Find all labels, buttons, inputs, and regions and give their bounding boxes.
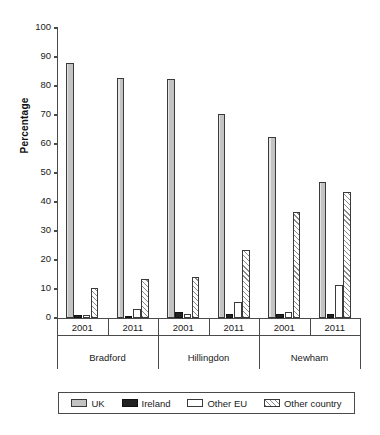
x-axis-group-separator <box>360 318 361 369</box>
y-axis-tick-label: 60 <box>40 137 51 148</box>
bar-other-eu-hillingdon-2011 <box>234 302 241 318</box>
bar-other-eu-newham-2001 <box>285 312 292 318</box>
bar-other-country-newham-2001 <box>293 212 300 318</box>
bar-cluster <box>109 28 160 318</box>
legend-item-other-country[interactable]: Other country <box>264 398 342 409</box>
y-axis-tick-label: 0 <box>46 311 51 322</box>
legend-swatch-icon <box>264 399 280 408</box>
legend-swatch-icon <box>187 399 203 408</box>
y-axis-tick-label: 30 <box>40 224 51 235</box>
bar-ireland-bradford-2001 <box>74 315 81 318</box>
bar-cluster <box>260 28 311 318</box>
bar-other-eu-bradford-2001 <box>83 315 90 318</box>
bar-cluster <box>311 28 362 318</box>
bar-ireland-hillingdon-2001 <box>175 312 182 318</box>
x-axis-year-label: 2001 <box>57 322 108 333</box>
legend-label: UK <box>91 398 104 409</box>
legend-item-ireland[interactable]: Ireland <box>122 398 171 409</box>
bar-uk-newham-2001 <box>268 137 275 318</box>
legend-item-other-eu[interactable]: Other EU <box>187 398 247 409</box>
bar-uk-hillingdon-2001 <box>167 79 174 318</box>
bar-other-country-hillingdon-2001 <box>192 277 199 318</box>
x-axis-group-label-bradford: Bradford <box>57 352 158 363</box>
legend-item-uk[interactable]: UK <box>71 398 104 409</box>
bar-uk-newham-2011 <box>319 182 326 318</box>
bar-ireland-newham-2011 <box>327 314 334 318</box>
y-axis-tick-label: 80 <box>40 79 51 90</box>
bar-ireland-hillingdon-2011 <box>226 314 233 318</box>
bar-cluster <box>58 28 109 318</box>
bar-cluster <box>210 28 261 318</box>
bar-other-country-bradford-2011 <box>141 279 148 318</box>
bar-uk-bradford-2001 <box>66 63 73 318</box>
legend-label: Ireland <box>142 398 171 409</box>
bar-uk-bradford-2011 <box>117 78 124 318</box>
x-axis-row-divider <box>57 335 360 336</box>
bar-other-eu-hillingdon-2001 <box>184 314 191 318</box>
legend-label: Other country <box>284 398 342 409</box>
bar-groups <box>58 28 361 318</box>
y-axis-tick-label: 10 <box>40 282 51 293</box>
bar-other-country-newham-2011 <box>343 192 350 318</box>
y-axis-tick-label: 90 <box>40 50 51 61</box>
x-axis-group-label-hillingdon: Hillingdon <box>158 352 259 363</box>
y-axis-tick-label: 20 <box>40 253 51 264</box>
chart-legend: UKIrelandOther EUOther country <box>58 392 355 414</box>
y-axis-tick-label: 100 <box>35 21 51 32</box>
x-axis-year-label: 2011 <box>108 322 159 333</box>
bar-ireland-newham-2001 <box>276 314 283 318</box>
plot-area: 0102030405060708090100 <box>57 28 361 319</box>
bar-other-country-hillingdon-2011 <box>242 250 249 318</box>
bar-ireland-bradford-2011 <box>125 316 132 318</box>
legend-label: Other EU <box>207 398 247 409</box>
y-axis-title: Percentage <box>19 66 30 186</box>
bar-cluster <box>159 28 210 318</box>
y-axis-tick-label: 70 <box>40 108 51 119</box>
bar-uk-hillingdon-2011 <box>218 114 225 318</box>
x-axis-group-label-newham: Newham <box>259 352 360 363</box>
bar-chart: Percentage 0102030405060708090100 200120… <box>0 0 380 435</box>
x-axis-year-label: 2001 <box>158 322 209 333</box>
bar-other-country-bradford-2001 <box>91 288 98 318</box>
x-axis-year-label: 2011 <box>310 322 361 333</box>
x-axis-year-label: 2001 <box>259 322 310 333</box>
bar-other-eu-newham-2011 <box>335 285 342 318</box>
y-axis-tick-label: 50 <box>40 166 51 177</box>
x-axis-year-label: 2011 <box>209 322 260 333</box>
legend-swatch-icon <box>122 399 138 408</box>
y-axis-tick-label: 40 <box>40 195 51 206</box>
bar-other-eu-bradford-2011 <box>133 309 140 318</box>
legend-swatch-icon <box>71 399 87 408</box>
